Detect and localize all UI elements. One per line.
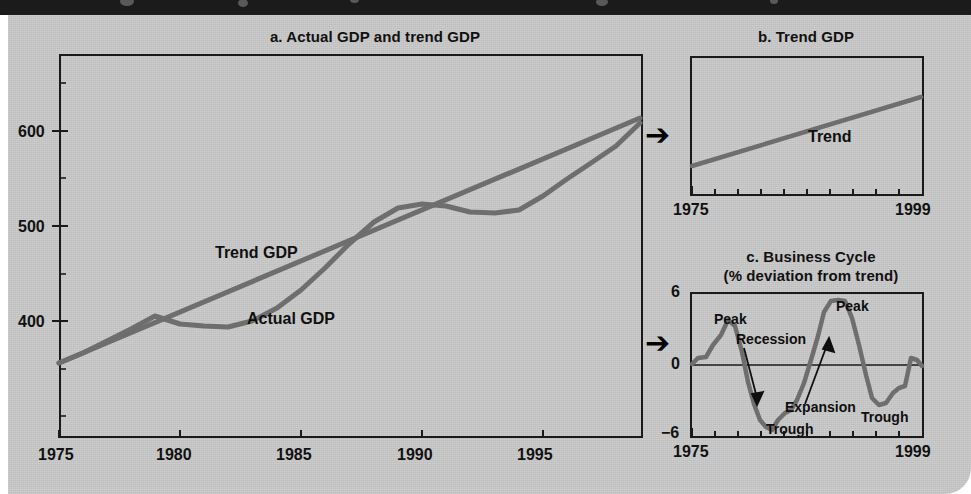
panel-c-annotation-trough-2: Trough bbox=[861, 409, 908, 425]
figure-page: a. Actual GDP and trend GDP 600 500 400 … bbox=[0, 0, 971, 494]
panel-c-ytick-6: 6 bbox=[671, 283, 680, 301]
panel-c-annotation-arrows bbox=[744, 338, 834, 405]
panel-c-annotation-peak-2: Peak bbox=[836, 298, 869, 314]
panel-c-ytick-0: 0 bbox=[671, 355, 680, 373]
panel-c-annotation-peak-1: Peak bbox=[714, 311, 747, 327]
panel-c-graphics bbox=[0, 0, 971, 494]
expansion-arrow-head bbox=[823, 338, 834, 352]
panel-c-annotation-expansion: Expansion bbox=[785, 399, 856, 415]
panel-c-xtick-1999: 1999 bbox=[895, 443, 931, 461]
panel-c-ytick-minus6: −6 bbox=[661, 424, 679, 442]
panel-c-xtick-1975: 1975 bbox=[673, 443, 709, 461]
panel-c-annotation-trough-1: Trough bbox=[766, 421, 813, 437]
panel-c-annotation-recession: Recession bbox=[736, 331, 806, 347]
